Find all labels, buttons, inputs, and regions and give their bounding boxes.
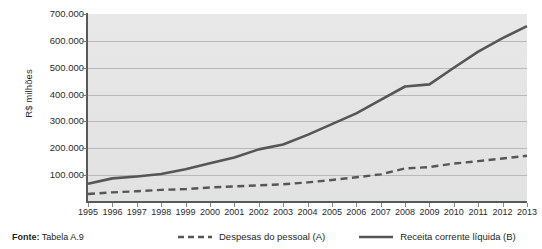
x-axis-tick-mark — [210, 203, 211, 207]
x-axis-tick-labels: 1995199619971998199920002001200220032004… — [0, 207, 533, 221]
y-axis-tick-label: 300.000 — [20, 116, 84, 126]
legend-swatch-dashed-icon — [178, 233, 212, 241]
chart-legend: Despesas do pessoal (A)Receita corrente … — [178, 230, 516, 244]
legend-item[interactable]: Despesas do pessoal (A) — [178, 231, 325, 243]
x-axis-tick-mark — [527, 203, 528, 207]
y-axis-tick-mark — [82, 121, 87, 122]
x-axis-tick-mark — [308, 203, 309, 207]
y-axis-tick-mark — [82, 14, 87, 15]
x-axis-tick-mark — [381, 203, 382, 207]
y-axis-tick-label: 400.000 — [20, 90, 84, 100]
x-axis-tick-mark — [356, 203, 357, 207]
x-axis-tick-label: 2013 — [507, 207, 542, 218]
legend-label: Receita corrente líquida (B) — [400, 231, 516, 243]
y-axis-tick-label: 100.000 — [20, 170, 84, 180]
x-axis-tick-mark — [283, 203, 284, 207]
figure-footer: Fonte: Tabela A.9 Despesas do pessoal (A… — [0, 228, 533, 249]
series-line-2 — [88, 26, 527, 184]
x-axis-tick-mark — [234, 203, 235, 207]
legend-item[interactable]: Receita corrente líquida (B) — [359, 231, 516, 243]
y-axis-tick-mark — [82, 148, 87, 149]
x-axis-tick-mark — [259, 203, 260, 207]
legend-swatch-solid-icon — [359, 233, 393, 241]
x-axis-tick-mark — [186, 203, 187, 207]
x-axis-tick-mark — [405, 203, 406, 207]
x-axis-tick-mark — [429, 203, 430, 207]
y-axis-tick-mark — [82, 175, 87, 176]
x-axis-tick-mark — [503, 203, 504, 207]
source-value: Tabela A.9 — [40, 232, 84, 242]
x-axis-tick-mark — [454, 203, 455, 207]
y-axis-tick-mark — [82, 95, 87, 96]
y-axis-tick-mark — [82, 41, 87, 42]
data-series-layer — [88, 14, 527, 202]
x-axis-tick-mark — [478, 203, 479, 207]
y-axis-tick-label: 200.000 — [20, 143, 84, 153]
x-axis-tick-mark — [112, 203, 113, 207]
y-axis-tick-label: 600.000 — [20, 36, 84, 46]
source-label: Fonte: — [12, 232, 40, 242]
x-axis-tick-mark — [88, 203, 89, 207]
y-axis-tick-mark — [82, 68, 87, 69]
y-axis-tick-label: 500.000 — [20, 63, 84, 73]
x-axis-tick-mark — [161, 203, 162, 207]
y-axis-tick-label: 700.000 — [20, 9, 84, 19]
x-axis-tick-mark — [137, 203, 138, 207]
legend-label: Despesas do pessoal (A) — [219, 231, 325, 243]
x-axis-tick-mark — [332, 203, 333, 207]
source-note: Fonte: Tabela A.9 — [12, 231, 84, 243]
